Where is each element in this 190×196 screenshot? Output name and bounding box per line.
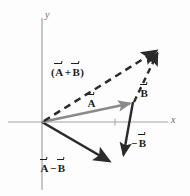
- vector-label-b: B: [140, 88, 148, 99]
- a-minus-b-operator: −: [49, 163, 57, 174]
- a-plus-b-first-letter: A: [55, 67, 64, 78]
- vector-label-a-minus-b: A−B: [40, 163, 66, 174]
- a-letter: A: [87, 98, 96, 109]
- vector-label-minus-b: −B: [130, 138, 147, 149]
- a-plus-b-close-paren: ): [80, 66, 84, 78]
- a-minus-b-first-letter: A: [40, 163, 49, 174]
- vector-a-minus-b-line: [42, 122, 109, 161]
- vector-label-a-plus-b: (A+B): [51, 67, 84, 78]
- b-letter: B: [140, 88, 148, 99]
- minus-b-letter: B: [138, 138, 146, 149]
- a-minus-b-second-letter: B: [57, 163, 65, 174]
- a-plus-b-second-letter: B: [72, 67, 80, 78]
- vector-addition-subtraction-diagram: y x (A+B) A B −B A−B: [0, 0, 190, 196]
- vector-label-a: A: [87, 98, 96, 109]
- minus-b-operator: −: [130, 138, 138, 149]
- x-axis-label: x: [171, 115, 175, 125]
- a-plus-b-operator: +: [64, 67, 72, 78]
- y-axis-label: y: [45, 10, 49, 20]
